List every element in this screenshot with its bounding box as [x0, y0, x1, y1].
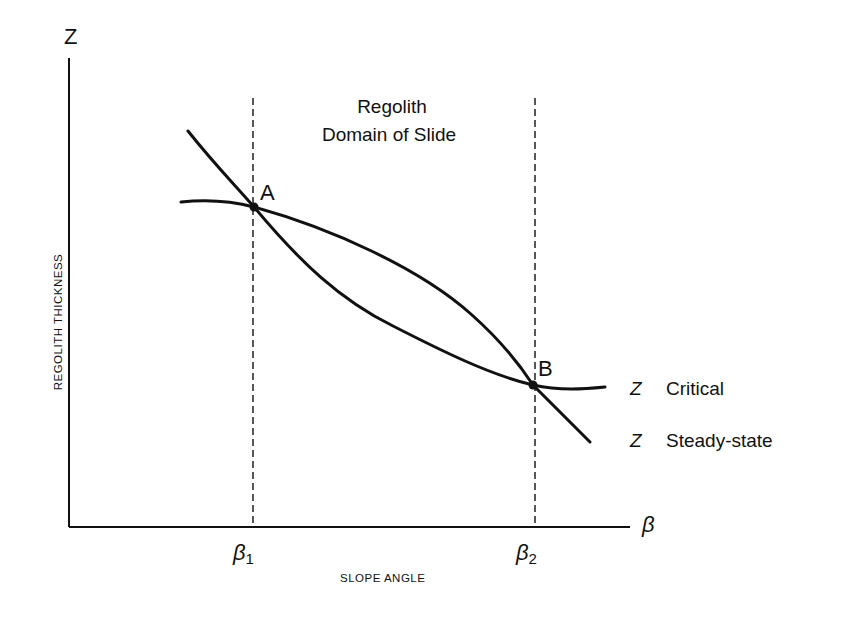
tick-beta2-symbol: β [516, 540, 529, 565]
point-a-label: A [260, 180, 275, 206]
point-b-label: B [538, 356, 553, 382]
tick-beta1: β1 [233, 540, 254, 567]
x-axis-symbol: β [642, 512, 655, 538]
legend-critical-symbol: Z [630, 378, 666, 400]
y-axis-label: REGOLITH THICKNESS [52, 242, 64, 402]
legend-steady-state: ZSteady-state [630, 430, 773, 452]
tick-beta1-symbol: β [233, 540, 246, 565]
y-axis-symbol: Z [64, 24, 77, 50]
legend-steady-state-label: Steady-state [666, 430, 773, 451]
legend-steady-state-symbol: Z [630, 430, 666, 452]
tick-beta2: β2 [516, 540, 537, 567]
diagram-title-line-1: Regolith [262, 96, 522, 118]
point-b-marker [529, 381, 538, 390]
legend-critical: ZCritical [630, 378, 724, 400]
diagram-title-line-2: Domain of Slide [259, 124, 519, 146]
x-axis-label: SLOPE ANGLE [340, 572, 425, 584]
tick-beta1-subscript: 1 [246, 550, 254, 567]
diagram-canvas [0, 0, 861, 619]
critical-curve [188, 131, 605, 389]
point-a-marker [250, 203, 259, 212]
tick-beta2-subscript: 2 [529, 550, 537, 567]
legend-critical-label: Critical [666, 378, 724, 399]
